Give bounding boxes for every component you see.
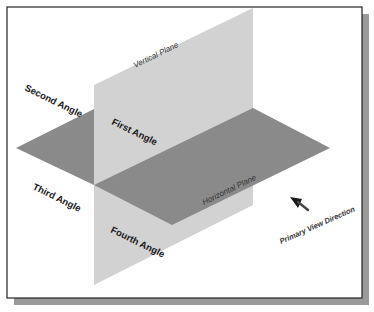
projection-angles-diagram: Vertical Plane Second Angle First Angle … bbox=[0, 0, 374, 312]
